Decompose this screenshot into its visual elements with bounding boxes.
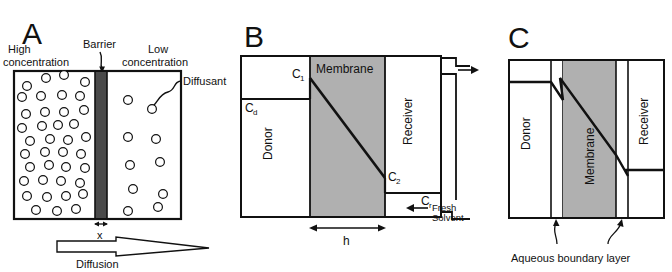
boundary-leader-right-arrowhead — [617, 219, 624, 227]
panel-b-receiver-label: Receiver — [401, 98, 415, 145]
thickness-arrow-right — [103, 222, 108, 227]
boundary-leader-left-arrowhead — [553, 219, 560, 226]
panel-c: C Donor Membrane Receiver Aqueous bounda… — [508, 21, 664, 264]
panel-a-diffusion-label: Diffusion — [76, 258, 119, 270]
panel-a-low-label: Low — [148, 43, 168, 55]
barrier-leader-line — [100, 52, 102, 69]
panel-c-donor-label: Donor — [519, 117, 533, 150]
panel-b-membrane-label: Membrane — [316, 62, 374, 76]
panel-c-boundary-label: Aqueous boundary layer — [511, 252, 631, 264]
panel-a-high-label: High — [8, 43, 31, 55]
boundary-leader-left — [554, 223, 557, 244]
figure-canvas: A High concentration Barrier Low concent… — [0, 0, 672, 272]
outlet-pipe-upper — [441, 58, 470, 66]
panel-a-diffusant-label: Diffusant — [183, 75, 226, 87]
panel-b-membrane — [310, 57, 385, 216]
outlet-flow-arrowhead — [471, 66, 479, 74]
panel-c-receiver-label: Receiver — [637, 98, 651, 145]
panel-a-barrier — [95, 72, 107, 218]
panel-a-thickness-label: x — [97, 229, 103, 241]
panel-b-letter: B — [244, 20, 264, 53]
panel-a-low-label-2: concentration — [122, 56, 188, 68]
cd-subscript: d — [253, 108, 257, 117]
panel-a-high-label-2: concentration — [3, 56, 69, 68]
panel-c-letter: C — [508, 21, 530, 54]
boundary-leader-right — [608, 223, 621, 244]
h-arrow-left — [309, 225, 317, 232]
thickness-arrow-left — [94, 222, 99, 227]
panel-c-membrane-label: Membrane — [583, 127, 597, 185]
panel-a: A High concentration Barrier Low concent… — [3, 17, 226, 270]
panel-a-barrier-label: Barrier — [83, 38, 116, 50]
c1-subscript: 1 — [300, 74, 305, 83]
c2-subscript: 2 — [396, 177, 401, 186]
panel-b-h-label: h — [343, 234, 350, 248]
diffusion-arrow — [57, 237, 209, 256]
figure-root: A High concentration Barrier Low concent… — [0, 0, 672, 272]
outlet-pipe-lower — [441, 74, 456, 200]
panel-b: B Membrane C 1 C d — [241, 20, 479, 248]
h-arrow-right — [378, 225, 386, 232]
solvent-label: Solvent — [432, 212, 464, 223]
panel-b-donor-label: Donor — [261, 127, 275, 160]
